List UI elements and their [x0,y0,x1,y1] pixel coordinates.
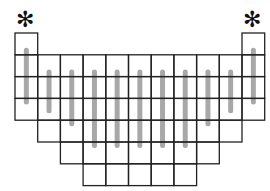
grid-cell [38,120,61,142]
grid-cell [151,164,174,186]
grid-cell [106,164,129,186]
grid-cell [197,142,220,164]
shaded-bar [137,70,142,148]
shaded-bar [92,70,97,148]
grid-cell [83,164,106,186]
grid-diagram [0,0,270,191]
grid-cell [174,164,197,186]
grid-cell [60,142,83,164]
shaded-bar [183,70,188,148]
shaded-bar [160,70,165,148]
grid-cell [219,120,242,142]
grid-cell [129,164,152,186]
shaded-bar [115,70,120,148]
